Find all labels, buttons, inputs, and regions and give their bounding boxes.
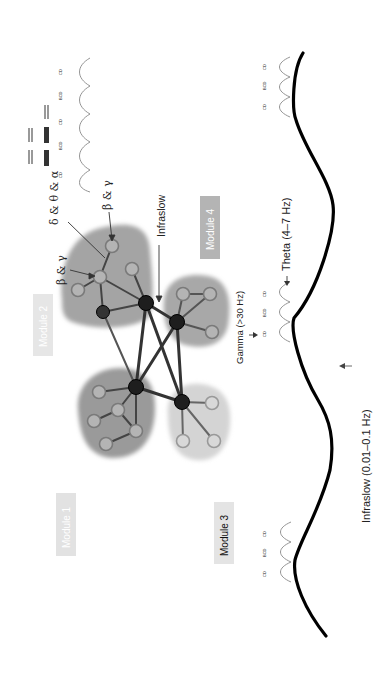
svg-text:CD: CD — [262, 331, 267, 337]
gamma-label: Gamma (>30 Hz) — [234, 291, 245, 364]
module-3-label: Module 3 — [214, 502, 234, 564]
wavelet-group-top: CD BCD CD — [262, 57, 290, 117]
wavelet-group-legend: CD BCD CD BCD CD — [58, 58, 90, 192]
svg-text:CD: CD — [262, 64, 267, 70]
svg-text:CD: CD — [262, 571, 267, 577]
infraslow-freq-label-group: Infraslow (0.01–0.1 Hz) — [339, 363, 372, 523]
module-4-label: Module 4 — [200, 196, 220, 259]
wavelet-group-middle: CD BCD CD — [262, 282, 290, 342]
theta-label-group: Theta (4–7 Hz) — [280, 198, 292, 286]
svg-text:CD: CD — [262, 531, 267, 537]
infraslow-arrow-label: Infraslow — [155, 195, 167, 237]
svg-text:CD: CD — [262, 104, 267, 110]
svg-text:CD: CD — [58, 119, 63, 125]
svg-text:Module 1: Module 1 — [61, 506, 72, 548]
wavelet-group-bottom: CD BCD CD — [262, 522, 291, 582]
svg-text:BCD: BCD — [262, 81, 267, 90]
svg-text:Module 4: Module 4 — [205, 208, 216, 250]
svg-text:BCD: BCD — [262, 548, 267, 557]
svg-text:CD: CD — [58, 69, 63, 75]
svg-text:BCD: BCD — [58, 91, 63, 100]
svg-text:BCD: BCD — [262, 308, 267, 317]
legend-spike-clusters — [28, 105, 49, 166]
svg-text:Module 2: Module 2 — [38, 305, 49, 347]
beta-gamma-lower-label: β & γ — [55, 255, 68, 285]
figure-canvas: δ & θ & α β & γ β & γ Infraslow Module 2… — [0, 0, 382, 684]
beta-gamma-top-label: β & γ — [101, 180, 114, 210]
svg-text:BCD: BCD — [58, 141, 63, 150]
svg-text:CD: CD — [262, 291, 267, 297]
svg-text:CD: CD — [58, 172, 63, 178]
infraslow-wave — [293, 53, 333, 636]
module-2-label: Module 2 — [33, 294, 53, 356]
svg-text:Module 3: Module 3 — [219, 514, 230, 556]
theta-label: Theta (4–7 Hz) — [280, 198, 292, 271]
module-4-blob — [164, 275, 230, 347]
module-1-label: Module 1 — [56, 493, 76, 556]
gamma-label-group: Gamma (>30 Hz) — [234, 291, 258, 364]
infraslow-freq-label: Infraslow (0.01–0.1 Hz) — [360, 409, 372, 523]
